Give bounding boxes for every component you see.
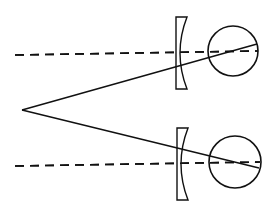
top-assembly bbox=[15, 17, 258, 110]
top-sight-line bbox=[22, 44, 257, 110]
bottom-assembly bbox=[15, 110, 261, 200]
bottom-optical-axis-overlay bbox=[15, 162, 260, 166]
optics-diagram bbox=[0, 0, 273, 213]
